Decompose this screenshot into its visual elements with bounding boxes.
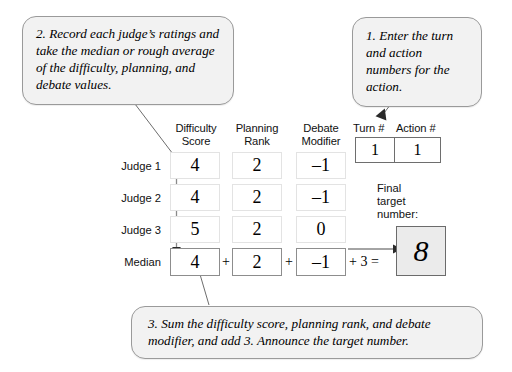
cell-judge1-debate[interactable]: –1 — [296, 152, 346, 179]
turn-number-box[interactable]: 1 — [355, 137, 395, 163]
cell-median-planning[interactable]: 2 — [232, 248, 282, 276]
cell-judge2-debate[interactable]: –1 — [296, 184, 346, 211]
diagram-canvas: 2. Record each judge’s ratings and take … — [0, 0, 512, 372]
callout-record-text: 2. Record each judge’s ratings and take … — [36, 26, 221, 94]
row-label-median: Median — [103, 256, 161, 269]
column-header-debate-modifier: Debate Modifier — [295, 122, 347, 147]
callout-sum-text: 3. Sum the difficulty score, planning ra… — [148, 315, 468, 349]
row-label-judge-1: Judge 1 — [103, 160, 161, 173]
cell-judge2-planning[interactable]: 2 — [232, 184, 282, 211]
column-header-turn-number: Turn # — [353, 122, 393, 135]
row-label-judge-3: Judge 3 — [103, 224, 161, 237]
cell-median-difficulty[interactable]: 4 — [170, 248, 220, 276]
callout-record-ratings: 2. Record each judge’s ratings and take … — [22, 16, 234, 105]
cell-judge1-planning[interactable]: 2 — [232, 152, 282, 179]
callout-enter-turn-action: 1. Enter the turn and action numbers for… — [352, 17, 482, 107]
column-header-difficulty-score: Difficulty Score — [170, 122, 222, 147]
cell-judge3-debate[interactable]: 0 — [296, 216, 346, 243]
final-target-label: Final target number: — [377, 182, 437, 220]
operator-plus-three-equals: + 3 = — [347, 248, 387, 276]
action-number-box[interactable]: 1 — [395, 137, 441, 163]
cell-judge3-planning[interactable]: 2 — [232, 216, 282, 243]
cell-judge1-difficulty[interactable]: 4 — [170, 152, 220, 179]
cell-median-debate[interactable]: –1 — [296, 248, 346, 276]
operator-plus-1: + — [220, 248, 232, 276]
callout-enter-text: 1. Enter the turn and action numbers for… — [366, 27, 470, 96]
row-label-judge-2: Judge 2 — [103, 192, 161, 205]
operator-plus-2: + — [282, 248, 296, 276]
final-target-value-box[interactable]: 8 — [396, 226, 446, 276]
cell-judge2-difficulty[interactable]: 4 — [170, 184, 220, 211]
callout-sum-instructions: 3. Sum the difficulty score, planning ra… — [131, 306, 483, 359]
column-header-planning-rank: Planning Rank — [231, 122, 283, 147]
column-header-action-number: Action # — [396, 122, 444, 135]
cell-judge3-difficulty[interactable]: 5 — [170, 216, 220, 243]
